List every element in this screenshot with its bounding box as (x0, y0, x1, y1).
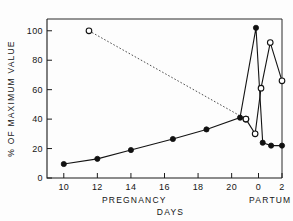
x-axis-title: DAYS (157, 207, 184, 217)
data-point-filled-circles-solid (260, 140, 265, 145)
y-tick-label: 60 (32, 85, 43, 95)
series-line-open-circles-dotted-lead (89, 31, 246, 119)
data-point-filled-circles-solid (237, 115, 242, 120)
x-tick-label: 20 (226, 182, 237, 192)
x-group-label: PREGNANCY (102, 195, 167, 205)
figure-container: 02040608010010121416182002 % OF MAXIMUM … (0, 0, 293, 221)
data-point-filled-circles-solid (279, 143, 284, 148)
x-tick-label: 16 (159, 182, 170, 192)
y-tick-label: 20 (32, 144, 43, 154)
x-tick-label: 2 (279, 182, 284, 192)
data-series (61, 25, 285, 166)
x-tick-label: 0 (256, 182, 261, 192)
data-point-filled-circles-solid (170, 136, 175, 141)
axis-ticks: 02040608010010121416182002 (27, 26, 285, 192)
data-point-open-circles-solid (279, 78, 285, 84)
data-point-filled-circles-solid (128, 147, 133, 152)
series-line-filled-circles-solid (64, 28, 282, 164)
data-point-open-circles-solid (252, 131, 258, 137)
x-tick-label: 12 (92, 182, 103, 192)
data-point-filled-circles-solid (95, 156, 100, 161)
axis-left-bottom (47, 19, 282, 178)
chart-canvas: 02040608010010121416182002 % OF MAXIMUM … (0, 0, 293, 221)
data-point-filled-circles-solid (61, 161, 66, 166)
x-tick-label: 10 (58, 182, 69, 192)
data-point-open-circles-solid (267, 40, 273, 46)
data-point-filled-circles-solid (253, 25, 258, 30)
data-point-open-circles-dotted-lead (86, 28, 92, 34)
x-tick-label: 18 (193, 182, 204, 192)
data-point-open-circles-solid (243, 116, 249, 122)
data-point-filled-circles-solid (204, 127, 209, 132)
data-point-filled-circles-solid (268, 143, 273, 148)
plot-frame (47, 19, 282, 178)
data-point-open-circles-solid (258, 85, 264, 91)
x-group-label: PARTUM (249, 195, 291, 205)
y-tick-label: 80 (32, 55, 43, 65)
y-tick-label: 40 (32, 114, 43, 124)
y-tick-label: 100 (27, 26, 43, 36)
x-tick-label: 14 (126, 182, 137, 192)
y-tick-label: 0 (38, 173, 43, 183)
frame-top-right (47, 19, 282, 178)
y-axis-title: % OF MAXIMUM VALUE (6, 40, 16, 156)
